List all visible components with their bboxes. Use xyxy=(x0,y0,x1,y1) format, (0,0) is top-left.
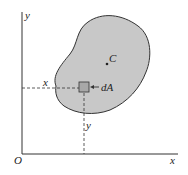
horizontal-distance-label: x xyxy=(42,76,48,88)
centroid-point xyxy=(106,63,109,66)
vertical-distance-label: y xyxy=(85,119,91,131)
diagram-svg: y x O C dA x y xyxy=(0,0,188,175)
y-axis-label: y xyxy=(24,9,30,21)
element-dA-square xyxy=(79,82,89,92)
element-label: dA xyxy=(101,81,114,93)
area-region xyxy=(55,16,150,114)
centroid-diagram: y x O C dA x y xyxy=(0,0,188,175)
centroid-label: C xyxy=(109,52,117,64)
origin-label: O xyxy=(14,154,22,166)
x-axis-label: x xyxy=(169,154,175,166)
